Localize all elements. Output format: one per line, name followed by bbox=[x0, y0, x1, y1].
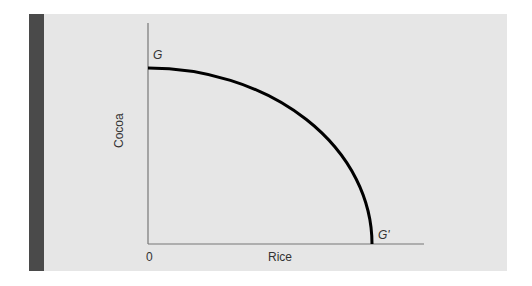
origin-label: 0 bbox=[146, 250, 153, 264]
ppf-curve bbox=[148, 68, 372, 244]
label-g: G bbox=[153, 48, 162, 62]
y-axis-label: Cocoa bbox=[112, 113, 126, 148]
x-axis-label: Rice bbox=[268, 250, 292, 264]
ppf-chart bbox=[0, 0, 532, 286]
label-g-prime: G' bbox=[378, 228, 390, 242]
